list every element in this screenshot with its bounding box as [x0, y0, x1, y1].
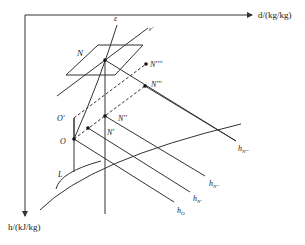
- label-h-n-triple: hN''': [238, 144, 249, 154]
- point-N: [103, 58, 107, 62]
- label-N: N: [76, 48, 84, 58]
- h-n-double-line: [105, 116, 205, 176]
- point-N-quad: [144, 62, 148, 66]
- h-n-triple-line-2: [145, 86, 236, 141]
- point-N-prime: [86, 126, 90, 130]
- label-N-quad: N'''': [149, 60, 162, 69]
- epsilon-line: [74, 25, 117, 139]
- h-n-prime-line: [88, 128, 190, 192]
- dashed-o-prime-n-quad: [74, 64, 146, 118]
- point-N-triple: [143, 84, 147, 88]
- y-axis-label: h/(kJ/kg): [8, 222, 41, 232]
- psychrometric-diagram: d/(kg/kg) h/(kJ/kg) N ε ε' N'''' N''' N'…: [0, 0, 305, 245]
- label-epsilon-prime: ε': [149, 25, 154, 33]
- point-N-double: [103, 114, 107, 118]
- point-O: [72, 137, 76, 141]
- label-O-prime: O': [57, 114, 65, 123]
- label-O: O: [60, 137, 66, 146]
- label-h-n-prime: hN': [193, 194, 202, 204]
- epsilon-prime-line: [57, 28, 148, 96]
- x-axis-label: d/(kg/kg): [258, 10, 292, 20]
- label-N-prime: N': [106, 128, 114, 137]
- l-curve: [56, 161, 101, 189]
- label-N-double: N'': [117, 114, 127, 123]
- label-N-triple: N''': [150, 80, 162, 89]
- label-h-o: hO: [177, 206, 185, 216]
- label-L: L: [57, 170, 63, 179]
- label-h-n-double: hN'': [209, 179, 219, 189]
